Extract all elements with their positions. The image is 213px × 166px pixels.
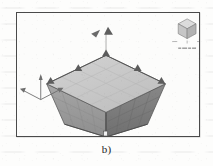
axis-z-arrowhead (39, 74, 43, 80)
top-leader-arrow-left (91, 30, 100, 38)
top-leader-arrow-right (104, 27, 113, 35)
axis-x-line (22, 90, 41, 100)
view-cube-compass-ticks (172, 41, 199, 44)
base-pin-node[interactable] (104, 131, 108, 136)
axis-x-arrowhead (20, 88, 26, 93)
corner-marker-mid-right[interactable] (134, 64, 142, 71)
viewport-canvas[interactable] (17, 13, 199, 136)
figure-caption: b) (0, 143, 213, 155)
corner-marker-back[interactable] (102, 49, 110, 56)
view-cube-status-glyphs (178, 47, 196, 49)
model-viewport[interactable] (16, 12, 200, 137)
top-load-leader (91, 27, 113, 59)
view-navigation-cube[interactable] (172, 19, 199, 49)
base-fixity-pin[interactable] (104, 131, 108, 136)
solid-body-frustum[interactable] (47, 55, 166, 136)
figure-root: b) (0, 0, 213, 166)
